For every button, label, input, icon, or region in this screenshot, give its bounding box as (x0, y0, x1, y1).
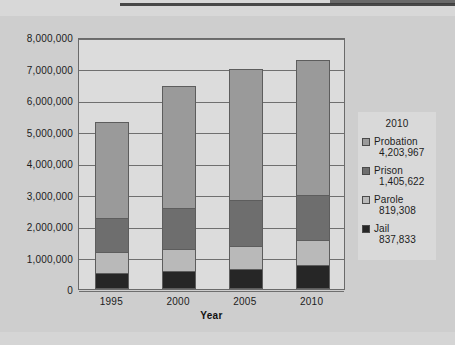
legend-label: Prison (374, 165, 403, 176)
y-axis-tick-label: 3,000,000 (1, 190, 73, 201)
bar-segment-parole-2005 (229, 246, 263, 269)
y-axis-tick-label: 6,000,000 (1, 96, 73, 107)
y-axis-tick-label: 8,000,000 (1, 33, 73, 44)
y-axis-tick-label: 2,000,000 (1, 222, 73, 233)
x-axis-tick-label: 2000 (148, 296, 208, 307)
bar-segment-probation-1995 (95, 122, 129, 217)
x-axis-tick-label: 2005 (215, 296, 275, 307)
y-axis-tick-label: 0 (1, 285, 73, 296)
legend-item-parole: Parole819,308 (362, 194, 432, 216)
bar-segment-parole-2010 (296, 240, 330, 265)
legend-value: 837,833 (379, 234, 432, 245)
bar-segment-probation-2005 (229, 69, 263, 201)
legend-swatch-icon (362, 225, 370, 233)
bar-segment-prison-2005 (229, 200, 263, 246)
x-axis-tick-label: 2010 (282, 296, 342, 307)
x-axis-tick-label: 1995 (81, 296, 141, 307)
stacked-bar-chart: 8,000,0007,000,0006,000,0005,000,0004,00… (0, 16, 455, 332)
legend-swatch-icon (362, 138, 370, 146)
scanned-page: 8,000,0007,000,0006,000,0005,000,0004,00… (0, 0, 455, 345)
legend-label: Probation (374, 136, 418, 147)
gridline (79, 291, 344, 292)
x-axis-title: Year (78, 310, 345, 321)
scan-edge-artifact-right (330, 0, 455, 4)
plot-area (78, 38, 345, 290)
legend-label: Jail (374, 223, 389, 234)
legend-row: Parole (362, 194, 432, 205)
legend-title: 2010 (362, 118, 432, 129)
bar-segment-probation-2010 (296, 60, 330, 195)
bar-segment-parole-1995 (95, 252, 129, 273)
legend-value: 1,405,622 (379, 176, 432, 187)
legend-swatch-icon (362, 167, 370, 175)
legend-row: Prison (362, 165, 432, 176)
bar-1995 (95, 122, 129, 289)
legend-row: Jail (362, 223, 432, 234)
gridline (79, 39, 344, 40)
y-axis-tick-label: 4,000,000 (1, 159, 73, 170)
legend-value: 819,308 (379, 205, 432, 216)
legend-item-prison: Prison1,405,622 (362, 165, 432, 187)
legend-items: Probation4,203,967Prison1,405,622Parole8… (362, 136, 432, 245)
chart-legend: 2010 Probation4,203,967Prison1,405,622Pa… (358, 112, 436, 260)
bar-segment-jail-2005 (229, 269, 263, 289)
bar-segment-prison-1995 (95, 218, 129, 252)
y-axis-tick-label: 5,000,000 (1, 127, 73, 138)
bar-2000 (162, 86, 196, 289)
legend-swatch-icon (362, 196, 370, 204)
bar-segment-prison-2000 (162, 208, 196, 250)
bar-segment-jail-1995 (95, 273, 129, 289)
legend-value: 4,203,967 (379, 147, 432, 158)
legend-label: Parole (374, 194, 404, 205)
bar-segment-jail-2010 (296, 265, 330, 289)
bar-segment-jail-2000 (162, 271, 196, 289)
y-axis-tick-label: 1,000,000 (1, 253, 73, 264)
bar-segment-prison-2010 (296, 195, 330, 241)
bar-2005 (229, 69, 263, 289)
legend-item-jail: Jail837,833 (362, 223, 432, 245)
y-axis-tick-label: 7,000,000 (1, 64, 73, 75)
legend-row: Probation (362, 136, 432, 147)
bar-2010 (296, 60, 330, 289)
scan-bottom-band (0, 331, 455, 345)
bar-segment-parole-2000 (162, 249, 196, 271)
legend-item-probation: Probation4,203,967 (362, 136, 432, 158)
bar-segment-probation-2000 (162, 86, 196, 208)
